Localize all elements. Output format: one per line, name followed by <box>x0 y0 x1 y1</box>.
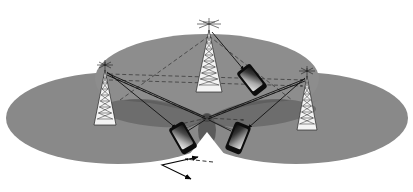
tower-top-antenna-icon <box>197 18 221 32</box>
network-diagram <box>0 0 413 192</box>
figure-canvas <box>0 0 413 192</box>
